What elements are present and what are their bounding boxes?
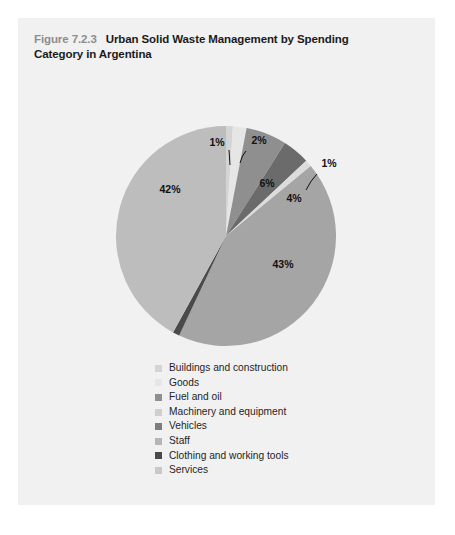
- pie-label-2pct: 2%: [251, 134, 267, 146]
- legend-item-label: Services: [169, 463, 208, 478]
- figure-card: Figure 7.2.3Urban Solid Waste Management…: [18, 18, 435, 505]
- legend-item-label: Machinery and equipment: [169, 405, 286, 420]
- legend-item-label: Clothing and working tools: [169, 449, 289, 464]
- legend-item-label: Goods: [169, 376, 199, 391]
- figure-page: Figure 7.2.3Urban Solid Waste Management…: [0, 0, 455, 535]
- legend-item-services[interactable]: Services: [155, 463, 405, 478]
- figure-title-block: Figure 7.2.3Urban Solid Waste Management…: [34, 32, 406, 61]
- legend-item-clothing-and-working-tools[interactable]: Clothing and working tools: [155, 449, 405, 464]
- legend-swatch-icon: [155, 394, 162, 401]
- legend-item-fuel-and-oil[interactable]: Fuel and oil: [155, 390, 405, 405]
- legend-swatch-icon: [155, 409, 162, 416]
- pie-chart-area: 1% 2% 6% 4% 1% 43% 1 42%: [18, 73, 435, 373]
- chart-legend: Buildings and construction Goods Fuel an…: [155, 361, 405, 478]
- legend-item-staff[interactable]: Staff: [155, 434, 405, 449]
- pie-label-6pct: 6%: [259, 177, 275, 189]
- legend-item-buildings-and-construction[interactable]: Buildings and construction: [155, 361, 405, 376]
- legend-swatch-icon: [155, 423, 162, 430]
- legend-swatch-icon: [155, 365, 162, 372]
- legend-item-vehicles[interactable]: Vehicles: [155, 419, 405, 434]
- pie-label-1pct-right: 1%: [321, 157, 337, 169]
- legend-swatch-icon: [155, 438, 162, 445]
- figure-number: Figure 7.2.3: [34, 33, 97, 45]
- pie-label-1pct-top: 1%: [209, 136, 225, 148]
- pie-chart-svg: 1% 2% 6% 4% 1% 43% 1 42%: [18, 73, 435, 373]
- legend-swatch-icon: [155, 379, 162, 386]
- legend-item-machinery-and-equipment[interactable]: Machinery and equipment: [155, 405, 405, 420]
- legend-item-label: Fuel and oil: [169, 390, 222, 405]
- legend-item-label: Vehicles: [169, 419, 207, 434]
- legend-item-label: Staff: [169, 434, 190, 449]
- legend-item-goods[interactable]: Goods: [155, 376, 405, 391]
- figure-title-line-2: Category in Argentina: [34, 47, 406, 62]
- pie-label-43pct: 43%: [272, 258, 294, 270]
- pie-label-42pct: 42%: [159, 183, 181, 195]
- figure-title-line-1: Figure 7.2.3Urban Solid Waste Management…: [34, 32, 406, 47]
- legend-swatch-icon: [155, 452, 162, 459]
- pie-label-4pct: 4%: [286, 192, 302, 204]
- figure-title-text-1: Urban Solid Waste Management by Spending: [106, 33, 349, 45]
- pie-slices: [116, 126, 336, 346]
- legend-item-label: Buildings and construction: [169, 361, 288, 376]
- legend-swatch-icon: [155, 467, 162, 474]
